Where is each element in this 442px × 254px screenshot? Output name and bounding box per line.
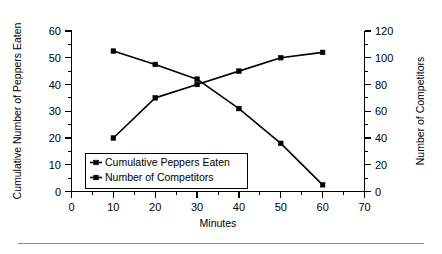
right-y-tick-label: 20	[375, 159, 387, 171]
chart-background	[0, 0, 442, 254]
data-point-marker	[195, 77, 200, 82]
data-point-marker	[237, 106, 242, 111]
right-y-tick-label: 80	[375, 79, 387, 91]
right-y-tick-label: 40	[375, 132, 387, 144]
left-y-tick-label: 30	[49, 105, 61, 117]
data-point-marker	[320, 183, 325, 188]
x-tick-label: 30	[191, 201, 203, 213]
left-y-tick-label: 10	[49, 159, 61, 171]
x-tick-label: 70	[358, 201, 370, 213]
left-y-tick-label: 40	[49, 79, 61, 91]
dual-axis-line-chart: 0102030405060 Cumulative Number of Peppe…	[0, 0, 442, 254]
data-point-marker	[111, 136, 116, 141]
legend-entry-label: Cumulative Peppers Eaten	[105, 156, 230, 168]
right-y-axis-title: Number of Competitors	[414, 57, 426, 166]
x-tick-label: 0	[68, 201, 74, 213]
data-point-marker	[237, 69, 242, 74]
x-tick-label: 10	[107, 201, 119, 213]
data-point-marker	[278, 55, 283, 60]
legend-sample-marker	[94, 160, 99, 165]
x-tick-label: 40	[233, 201, 245, 213]
left-y-tick-label: 20	[49, 132, 61, 144]
x-tick-label: 20	[149, 201, 161, 213]
right-y-tick-label: 100	[375, 52, 393, 64]
left-y-axis-title: Cumulative Number of Peppers Eaten	[11, 22, 23, 199]
chart-legend: Cumulative Peppers EatenNumber of Compet…	[86, 154, 248, 189]
data-point-marker	[195, 82, 200, 87]
data-point-marker	[320, 50, 325, 55]
data-point-marker	[278, 141, 283, 146]
data-point-marker	[153, 62, 158, 67]
legend-entry-1: Cumulative Peppers Eaten	[90, 156, 230, 168]
right-y-tick-label: 60	[375, 105, 387, 117]
right-y-tick-label: 120	[375, 25, 393, 37]
legend-sample-marker	[94, 175, 99, 180]
data-point-marker	[153, 96, 158, 101]
left-y-tick-label: 50	[49, 52, 61, 64]
legend-entry-label: Number of Competitors	[105, 171, 214, 183]
left-y-tick-label: 0	[55, 186, 61, 198]
x-tick-label: 50	[275, 201, 287, 213]
data-point-marker	[111, 49, 116, 54]
legend-entry-2: Number of Competitors	[90, 171, 214, 183]
x-axis-title: Minutes	[200, 217, 237, 229]
x-tick-label: 60	[317, 201, 329, 213]
chart-figure: 0102030405060 Cumulative Number of Peppe…	[0, 0, 442, 254]
left-y-tick-label: 60	[49, 25, 61, 37]
right-y-tick-label: 0	[375, 186, 381, 198]
